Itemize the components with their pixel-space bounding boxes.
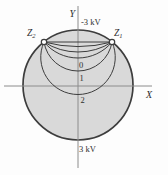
y-axis-label: Y <box>69 8 76 19</box>
x-axis-label: X <box>145 89 153 100</box>
charge-point-left-marker <box>41 39 46 44</box>
equipotential-value-label: 0 <box>79 60 83 70</box>
equipotential-value-label: 2 <box>81 95 85 105</box>
top-potential-label: -3 kV <box>81 17 101 27</box>
point-z1-label: Z1 <box>114 28 123 39</box>
equipotential-diagram: Y -3 kV X Z2 Z1 012 3 kV <box>0 0 168 175</box>
diagram-canvas: Y -3 kV X Z2 Z1 012 3 kV <box>0 0 168 175</box>
equipotential-value-label: 1 <box>80 73 84 83</box>
point-z2-label: Z2 <box>27 28 36 39</box>
charge-point-right-marker <box>109 39 114 44</box>
bottom-potential-label: 3 kV <box>79 144 97 154</box>
